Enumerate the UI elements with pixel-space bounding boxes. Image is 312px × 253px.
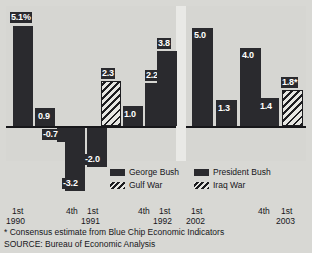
bar-label-left-2: -0.7	[42, 129, 59, 140]
axis-tick-year-5: 2002	[186, 216, 205, 226]
bar-left-8	[157, 51, 177, 126]
bar-label-left-8: 3.8	[157, 38, 171, 49]
zero-line-right	[186, 126, 306, 128]
legend-label-george-bush: George Bush	[129, 168, 179, 177]
legend-item-george-bush: George Bush	[110, 167, 179, 178]
bar-label-left-5: 2.3	[101, 68, 115, 79]
legend-right-group: President Bush Iraq War	[194, 167, 271, 193]
footnote-source: SOURCE: Bureau of Economic Analysis	[4, 239, 155, 250]
bar-label-right-0: 5.0	[193, 30, 207, 41]
bar-right-4-iraq-war	[282, 90, 303, 126]
legend-item-iraq-war: Iraq War	[194, 180, 271, 191]
legend-item-president-bush: President Bush	[194, 167, 271, 178]
axis-tick-quarter-5: 1st	[191, 206, 202, 216]
legend-left-group: George Bush Gulf War	[110, 167, 179, 193]
legend-item-gulf-war: Gulf War	[110, 180, 179, 191]
axis-tick-quarter-4: 1st	[159, 206, 170, 216]
bar-label-right-4: 1.8*	[281, 77, 298, 88]
axis-tick-year-7: 2003	[276, 216, 295, 226]
zero-line-left	[6, 126, 176, 128]
axis-tick-quarter-0: 1st	[12, 206, 23, 216]
axis-tick-quarter-3: 4th	[138, 206, 150, 216]
footnote-estimate: * Consensus estimate from Blue Chip Econ…	[4, 227, 224, 238]
axis-tick-year-2: 1991	[81, 216, 100, 226]
panel-separator	[176, 6, 186, 161]
legend-swatch-hatch-2-icon	[194, 182, 209, 189]
bar-left-5-gulf-war	[101, 81, 121, 126]
bar-label-left-3: -3.2	[62, 178, 79, 189]
chart-root: 5.1% 0.9 -0.7 -3.2 -2.0 2.3 1.0 2.2 3.8 …	[0, 0, 312, 253]
bar-right-0	[192, 28, 213, 126]
bar-label-left-4: -2.0	[84, 154, 101, 165]
axis-tick-quarter-2: 1st	[87, 206, 98, 216]
bar-left-0	[13, 26, 33, 126]
legend-label-iraq-war: Iraq War	[213, 181, 245, 190]
bar-label-right-3: 1.4	[259, 101, 273, 112]
axis-tick-quarter-1: 4th	[66, 206, 78, 216]
axis-tick-quarter-7: 1st	[281, 206, 292, 216]
bar-label-left-0: 5.1%	[10, 12, 32, 23]
legend-swatch-solid-2-icon	[194, 169, 209, 176]
legend-label-president-bush: President Bush	[213, 168, 271, 177]
axis-tick-year-0: 1990	[6, 216, 25, 226]
axis-tick-quarter-6: 4th	[258, 206, 270, 216]
legend-swatch-solid-icon	[110, 169, 125, 176]
axis-tick-year-4: 1992	[153, 216, 172, 226]
legend-swatch-hatch-icon	[110, 182, 125, 189]
bar-label-left-1: 0.9	[37, 111, 51, 122]
bar-label-right-1: 1.3	[217, 103, 231, 114]
bar-label-right-2: 4.0	[241, 50, 255, 61]
bar-label-left-6: 1.0	[123, 109, 137, 120]
legend-label-gulf-war: Gulf War	[129, 181, 162, 190]
